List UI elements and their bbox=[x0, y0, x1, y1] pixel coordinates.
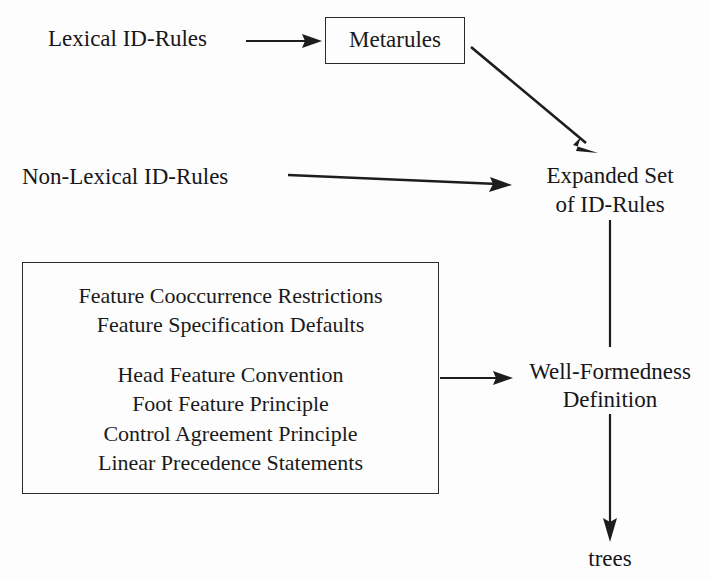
principles-line-lps: Linear Precedence Statements bbox=[23, 448, 438, 477]
edge-lexical-to-metarules bbox=[246, 34, 322, 48]
principles-line-fcr: Feature Cooccurrence Restrictions bbox=[23, 281, 438, 310]
node-expanded-set-line1: Expanded Set bbox=[546, 162, 673, 189]
node-well-formedness-line2: Definition bbox=[563, 386, 658, 413]
diagram-canvas: Metarules --> Expanded Set (diagonal) --… bbox=[0, 0, 710, 579]
edge-metarules-to-expanded-set bbox=[471, 47, 598, 153]
principles-line-hfc: Head Feature Convention bbox=[23, 360, 438, 389]
edge-non-lexical-to-expanded-set bbox=[288, 175, 512, 192]
edge-principles-to-well-formedness bbox=[440, 371, 513, 385]
metarules-label: Metarules bbox=[326, 27, 464, 53]
principles-group-2: Head Feature Convention Foot Feature Pri… bbox=[23, 360, 438, 477]
principles-line-fsd: Feature Specification Defaults bbox=[23, 310, 438, 339]
principles-box: Feature Cooccurrence Restrictions Featur… bbox=[22, 262, 439, 494]
node-non-lexical-id-rules: Non-Lexical ID-Rules bbox=[22, 163, 228, 190]
metarules-box: Metarules bbox=[325, 17, 465, 64]
node-expanded-set-line2: of ID-Rules bbox=[555, 191, 664, 218]
node-lexical-id-rules: Lexical ID-Rules bbox=[48, 25, 207, 52]
node-trees: trees bbox=[588, 545, 631, 572]
principles-line-cap: Control Agreement Principle bbox=[23, 419, 438, 448]
edge-well-formedness-to-trees bbox=[603, 414, 617, 542]
principles-line-ffp: Foot Feature Principle bbox=[23, 389, 438, 418]
node-well-formedness-line1: Well-Formedness bbox=[529, 358, 691, 385]
principles-group-1: Feature Cooccurrence Restrictions Featur… bbox=[23, 281, 438, 340]
